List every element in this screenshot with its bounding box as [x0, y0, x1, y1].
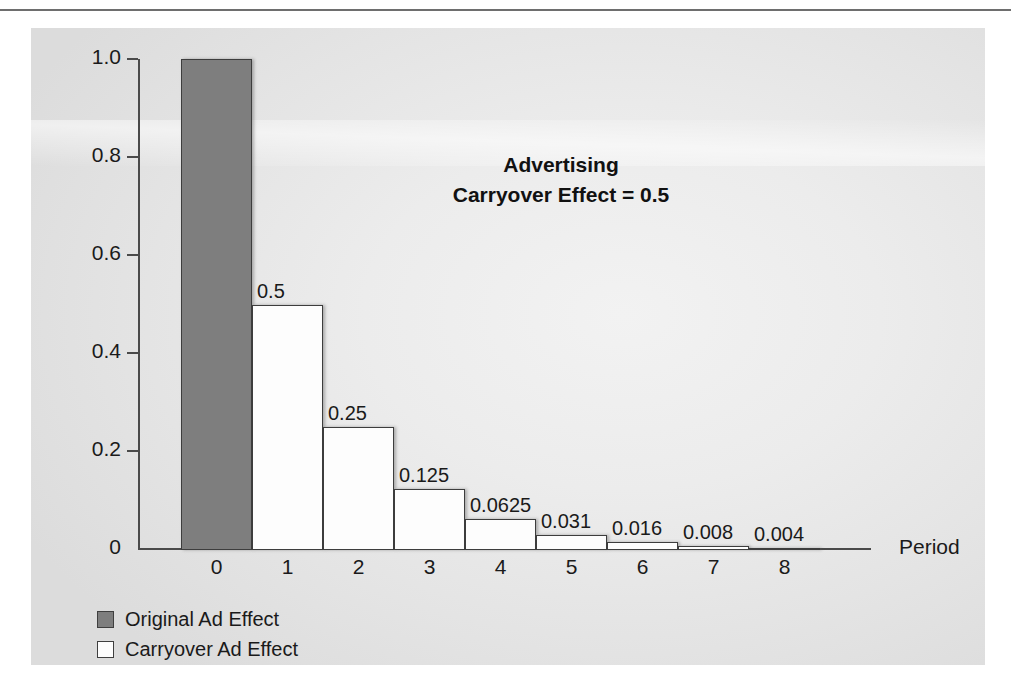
chart-title-line-2: Carryover Effect = 0.5 [361, 180, 761, 210]
legend-item[interactable]: Original Ad Effect [97, 604, 457, 634]
bar-slot: 0.016 [607, 59, 678, 550]
bar-slot: 0.5 [252, 59, 323, 550]
bar-value-label: 0.0625 [470, 494, 531, 517]
x-axis-tick-labels: 012345678 [181, 555, 821, 589]
bar-slot: 0.0625 [465, 59, 536, 550]
y-axis-tick [127, 352, 138, 354]
legend-swatch-icon [97, 641, 114, 658]
x-axis-title: Period [899, 535, 960, 559]
bar-slot: 0.25 [323, 59, 394, 550]
bar-3[interactable] [394, 489, 465, 550]
bar-value-label: 0.004 [754, 523, 804, 546]
y-axis-tick-label: 0.4 [65, 339, 121, 363]
bar-value-label: 0.5 [257, 280, 285, 303]
bar-series-group: 0.50.250.1250.06250.0310.0160.0080.004 [181, 59, 821, 550]
y-axis-tick-label: 0.6 [65, 241, 121, 265]
chart-legend: Original Ad EffectCarryover Ad Effect [97, 604, 457, 664]
bar-slot: 0.004 [749, 59, 820, 550]
bar-5[interactable] [536, 535, 607, 550]
legend-swatch-icon [97, 611, 114, 628]
x-axis-tick-label: 7 [678, 555, 749, 579]
bar-value-label: 0.25 [328, 402, 367, 425]
y-axis-tick [127, 156, 138, 158]
x-axis-tick-label: 1 [252, 555, 323, 579]
bar-6[interactable] [607, 542, 678, 550]
bar-slot: 0.031 [536, 59, 607, 550]
y-axis-tick [127, 254, 138, 256]
bar-value-label: 0.008 [683, 521, 733, 544]
x-axis-tick-label: 0 [181, 555, 252, 579]
x-axis-tick-label: 2 [323, 555, 394, 579]
x-axis-tick-label: 4 [465, 555, 536, 579]
legend-item[interactable]: Carryover Ad Effect [97, 634, 457, 664]
y-axis-tick-label: 0.8 [65, 143, 121, 167]
bar-slot [181, 59, 252, 550]
y-axis-tick [127, 58, 138, 60]
y-axis-tick-labels: 1.00.80.60.40.20 [59, 28, 121, 665]
y-axis-tick-label: 0 [65, 535, 121, 559]
bar-0[interactable] [181, 59, 252, 550]
y-axis-tick-label: 0.2 [65, 437, 121, 461]
x-axis-tick-label: 6 [607, 555, 678, 579]
bar-slot: 0.008 [678, 59, 749, 550]
plot-area: 1.00.80.60.40.20 0.50.250.1250.06250.031… [31, 28, 985, 665]
bar-slot: 0.125 [394, 59, 465, 550]
y-axis-tick [127, 450, 138, 452]
bar-8[interactable] [749, 548, 820, 550]
bar-value-label: 0.016 [612, 517, 662, 540]
legend-item-label: Original Ad Effect [125, 608, 279, 631]
legend-item-label: Carryover Ad Effect [125, 638, 298, 661]
y-axis-tick-label: 1.0 [65, 45, 121, 69]
x-axis-tick-label: 3 [394, 555, 465, 579]
bar-1[interactable] [252, 305, 323, 551]
bar-value-label: 0.031 [541, 510, 591, 533]
bar-value-label: 0.125 [399, 464, 449, 487]
x-axis-tick-label: 5 [536, 555, 607, 579]
top-horizontal-rule [0, 9, 1011, 11]
x-axis-tick-label: 8 [749, 555, 820, 579]
chart-figure-panel: 1.00.80.60.40.20 0.50.250.1250.06250.031… [31, 28, 985, 665]
bar-7[interactable] [678, 546, 749, 550]
bar-4[interactable] [465, 519, 536, 550]
chart-title: Advertising Carryover Effect = 0.5 [361, 150, 761, 210]
bar-2[interactable] [323, 427, 394, 550]
chart-title-line-1: Advertising [361, 150, 761, 180]
y-axis-line [138, 59, 140, 550]
